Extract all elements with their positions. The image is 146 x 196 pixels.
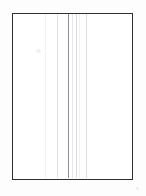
column-rule: [79, 14, 80, 179]
column-rule: [86, 14, 87, 179]
column-rule: [45, 14, 46, 179]
scanned-page-canvas: [0, 0, 146, 196]
corner-speck: [136, 187, 139, 190]
scan-smudge: [36, 49, 41, 53]
column-rule: [57, 14, 58, 179]
column-rule: [72, 14, 73, 179]
column-rule: [76, 14, 77, 179]
column-rule: [68, 14, 69, 179]
